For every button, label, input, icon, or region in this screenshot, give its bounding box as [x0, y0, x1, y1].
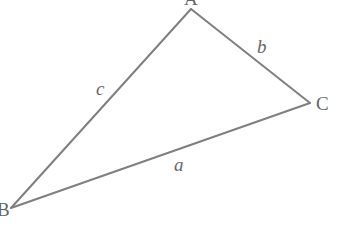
vertex-b-label: B	[0, 199, 10, 220]
side-a-label: a	[174, 154, 184, 175]
side-a-edge	[11, 103, 310, 208]
vertex-c-label: C	[316, 93, 329, 114]
side-b-edge	[191, 9, 310, 103]
side-c-label: c	[96, 78, 105, 99]
triangle-diagram: A B C a b c	[0, 0, 353, 235]
vertex-a-label: A	[184, 0, 198, 9]
side-c-edge	[11, 9, 191, 208]
side-b-label: b	[257, 36, 267, 57]
